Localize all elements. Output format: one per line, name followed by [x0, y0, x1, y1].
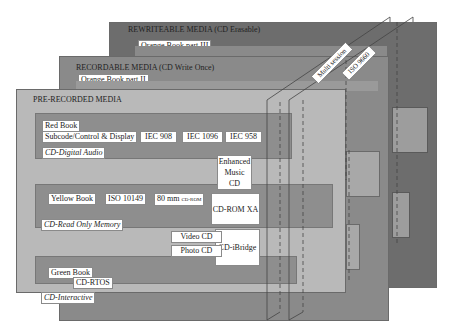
iso-9660-plane-bottom-edge [289, 312, 303, 320]
multi-session-plane-bottom-edge [267, 312, 280, 320]
plane-overlay [0, 0, 451, 335]
iso-9660-plane-top-edge [289, 17, 413, 100]
